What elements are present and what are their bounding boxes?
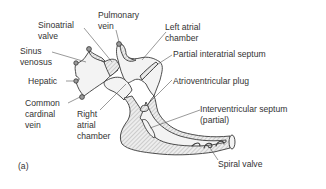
label-partial-interatrial-septum: Partial interatrial septum [173,49,266,59]
leader-pulmonary-vein [116,30,119,42]
leader-sinus-venosus [52,52,86,62]
diagram-canvas: Sinoatrial valve Pulmonary vein Left atr… [0,0,326,189]
label-sinoatrial-valve: Sinoatrial valve [38,20,76,41]
leader-left-atrial [142,32,166,60]
label-hepatic: Hepatic [28,76,58,86]
cardinal-knob [80,95,85,100]
label-sinus-venosus: Sinus venosus [20,46,52,67]
pulmonary-vein-knob [117,42,122,47]
panel-label: (a) [18,161,29,171]
leader-interatrial [158,55,172,64]
label-right-atrial-chamber: Right atrial chamber [77,109,111,141]
heart-diagram: Sinoatrial valve Pulmonary vein Left atr… [0,0,326,189]
label-pulmonary-vein: Pulmonary vein [98,10,141,31]
label-common-cardinal-vein: Common cardinal vein [25,98,62,130]
label-interventricular-septum: Interventricular septum (partial) [200,104,290,125]
label-spiral-valve: Spiral valve [218,159,263,169]
sinus-node-knob [74,61,78,65]
leader-common-cardinal [68,97,80,103]
label-left-atrial-chamber: Left atrial chamber [165,22,203,43]
hepatic-knob [74,79,78,83]
outflow-opening [229,135,235,149]
label-atrioventricular-plug: Atrioventricular plug [173,76,249,86]
atrioventricular-plug-shape [140,105,149,111]
sinus-venosus-knob [87,47,92,52]
